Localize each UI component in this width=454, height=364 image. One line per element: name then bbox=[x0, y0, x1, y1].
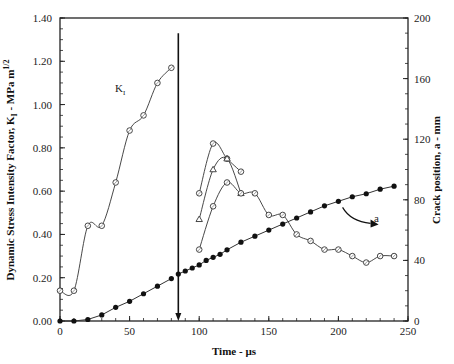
y-right-tick-label: 80 bbox=[414, 194, 426, 206]
data-point-marker bbox=[210, 166, 216, 171]
data-point-marker bbox=[322, 203, 327, 208]
series-crack-position-a-before-arrest- bbox=[57, 276, 174, 324]
chart: 0501001502002500.000.200.400.600.801.001… bbox=[0, 0, 454, 364]
a-annotation: a bbox=[374, 212, 379, 224]
annotations bbox=[175, 33, 378, 321]
y-left-tick-label: 1.00 bbox=[33, 99, 53, 111]
data-point-marker bbox=[113, 305, 118, 310]
data-point-marker bbox=[155, 284, 160, 289]
data-point-marker bbox=[336, 199, 341, 204]
y-left-tick-label: 1.40 bbox=[33, 12, 53, 24]
x-tick-label: 100 bbox=[191, 325, 208, 337]
data-point-marker bbox=[197, 262, 202, 267]
y-right-tick-label: 160 bbox=[414, 73, 431, 85]
data-point-marker bbox=[127, 299, 132, 304]
data-point-marker bbox=[378, 187, 383, 192]
series-k-i-upper-open-circle- bbox=[196, 141, 243, 196]
y-left-tick-label: 0.60 bbox=[33, 185, 53, 197]
y-left-tick-label: 0.40 bbox=[33, 228, 53, 240]
plot-frame bbox=[60, 18, 408, 321]
plot-area-border bbox=[60, 18, 408, 321]
data-point-marker bbox=[71, 318, 76, 323]
k-annotation: KI bbox=[115, 82, 126, 97]
data-point-marker bbox=[391, 184, 396, 189]
data-point-marker bbox=[280, 221, 285, 226]
x-axis-title: Time - µs bbox=[212, 345, 257, 357]
y-left-tick-label: 0.20 bbox=[33, 272, 53, 284]
y-axis-right-title: Crack position, a - mm bbox=[430, 116, 442, 224]
y-left-tick-label: 0.80 bbox=[33, 142, 53, 154]
data-point-marker bbox=[204, 258, 209, 263]
y-left-tick-label: 1.20 bbox=[33, 55, 53, 67]
data-point-marker bbox=[364, 191, 369, 196]
data-point-marker bbox=[294, 215, 299, 220]
series-layer bbox=[57, 65, 397, 324]
y-right-tick-label: 200 bbox=[414, 12, 431, 24]
x-tick-label: 150 bbox=[261, 325, 278, 337]
data-point-marker bbox=[308, 209, 313, 214]
y-left-tick-label: 0.00 bbox=[33, 315, 53, 327]
data-point-marker bbox=[190, 265, 195, 270]
x-tick-label: 200 bbox=[330, 325, 347, 337]
data-point-marker bbox=[85, 317, 90, 322]
data-point-marker bbox=[211, 255, 216, 260]
data-point-marker bbox=[350, 194, 355, 199]
arrest-arrow bbox=[175, 33, 181, 321]
y-right-tick-label: 0 bbox=[414, 315, 420, 327]
y-right-tick-label: 120 bbox=[414, 133, 431, 145]
data-point-marker bbox=[57, 318, 62, 323]
axis-ticks: 0501001502002500.000.200.400.600.801.001… bbox=[33, 12, 431, 337]
data-point-marker bbox=[141, 291, 146, 296]
data-point-marker bbox=[217, 252, 222, 257]
y-right-tick-label: 40 bbox=[414, 254, 426, 266]
x-tick-label: 50 bbox=[124, 325, 136, 337]
data-point-marker bbox=[266, 228, 271, 233]
series-k-i-triangle- bbox=[196, 155, 244, 221]
data-point-marker bbox=[224, 247, 229, 252]
data-point-marker bbox=[196, 216, 202, 221]
data-point-marker bbox=[169, 276, 174, 281]
data-point-marker bbox=[252, 234, 257, 239]
data-point-marker bbox=[238, 240, 243, 245]
x-tick-label: 0 bbox=[57, 325, 63, 337]
series-k-i-before-arrest- bbox=[57, 65, 174, 296]
y-axis-left-title: Dynamic Stress Intensity Factor, KI - MP… bbox=[2, 59, 19, 280]
data-point-marker bbox=[183, 268, 188, 273]
data-point-marker bbox=[99, 312, 104, 317]
